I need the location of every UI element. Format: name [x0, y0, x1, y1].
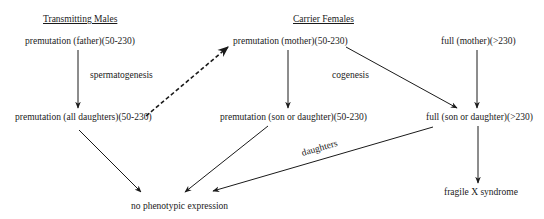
node-mother-premutation: premutation (mother)(50-230) [233, 37, 348, 47]
node-son-daughter-full: full (son or daughter)(>230) [426, 113, 533, 123]
node-no-phenotypic-expression: no phenotypic expression [131, 202, 228, 212]
header-transmitting-males: Transmitting Males [43, 15, 117, 25]
node-all-daughters-premutation: premutation (all daughters)(50-230) [15, 113, 152, 123]
edge-all-daughters-to-mother-dashed [146, 47, 228, 116]
edge-all-daughters-to-no-phenotype [79, 130, 141, 192]
inheritance-diagram: Transmitting Males Carrier Females premu… [0, 0, 544, 219]
header-carrier-females: Carrier Females [293, 15, 354, 25]
node-son-daughter-premutation: premutation (son or daughter)(50-230) [220, 113, 367, 123]
edge-son-daughter-full-to-no-phenotype [213, 127, 433, 191]
node-fragile-x-syndrome: fragile X syndrome [444, 188, 518, 198]
edge-son-daughter-pre-to-no-phenotype [185, 126, 268, 192]
node-mother-full: full (mother)(>230) [441, 37, 516, 47]
node-father-premutation: premutation (father)(50-230) [25, 37, 135, 47]
edge-label-spermatogenesis: spermatogenesis [90, 71, 153, 81]
edge-label-oogenesis: cogenesis [332, 71, 369, 81]
